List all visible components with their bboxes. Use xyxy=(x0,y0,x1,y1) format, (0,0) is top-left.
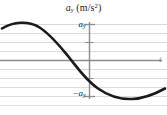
x-axis-label: t xyxy=(159,54,162,64)
chart-title: ay (m/s2) xyxy=(0,2,167,13)
y-label-bottom-subscript: y xyxy=(83,91,86,98)
y-axis-label-negative: −ay xyxy=(54,88,86,98)
y-label-top-subscript: y xyxy=(83,22,86,29)
acceleration-time-figure: ay (m/s2) ay −ay t xyxy=(0,0,167,115)
y-label-bottom-symbol: −a xyxy=(73,88,84,98)
title-units-open: (m/s xyxy=(74,2,95,13)
y-axis-label-positive: ay xyxy=(58,19,86,29)
title-units-close: ) xyxy=(98,2,101,13)
